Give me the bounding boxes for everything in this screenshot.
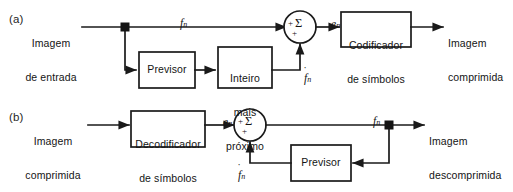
signal-en-b: en — [211, 104, 232, 141]
box-label-decodificador-line1: Decodificador — [132, 139, 204, 150]
input-label-a-line2: de entrada — [18, 72, 84, 83]
box-label-previsor-b: Previsor — [291, 157, 351, 168]
signal-fn-b-sub: n — [376, 118, 380, 127]
signal-fn-hat-a: fn — [292, 60, 311, 97]
box-label-decodificador-line2: de símbolos — [132, 173, 204, 184]
summer-a-sign-bottom: + — [292, 29, 297, 39]
junction-node-a — [121, 23, 130, 32]
predictive-coding-block-diagram: (a) Imagem de entrada fn Previsor Inteir… — [0, 0, 513, 192]
wire-junction-to-previsor — [125, 27, 136, 70]
signal-fn-hat-b-base: f — [238, 169, 241, 181]
box-label-codificador: Codificador de símbolos — [343, 17, 409, 108]
box-label-codificador-line1: Codificador — [343, 40, 409, 51]
box-label-previsor-a: Previsor — [139, 64, 195, 75]
box-label-inteiro-line1: Inteiro — [218, 73, 272, 84]
box-label-codificador-line2: de símbolos — [343, 74, 409, 85]
input-label-a-line1: Imagem — [18, 38, 84, 49]
signal-fn-hat-a-sub: n — [307, 75, 311, 84]
signal-fn-hat-a-base: f — [304, 72, 307, 84]
signal-fn-a: fn — [168, 5, 187, 42]
output-label-b: Imagem descomprimida — [429, 113, 513, 192]
output-label-a: Imagem comprimida — [448, 15, 512, 106]
signal-fn-hat-b-sub: n — [241, 172, 245, 181]
box-label-decodificador: Decodificador de símbolos — [132, 116, 204, 192]
box-label-inteiro-line3: próximo — [218, 141, 272, 152]
signal-fn-hat-b: fn — [226, 157, 245, 192]
signal-en-a-sub: n — [336, 21, 340, 30]
signal-en-b-sub: n — [228, 119, 232, 128]
input-label-b: Imagem comprimida — [18, 113, 88, 192]
output-label-b-line1: Imagem — [429, 136, 513, 147]
input-label-b-line1: Imagem — [18, 136, 88, 147]
junction-node-b — [385, 121, 394, 130]
input-label-b-line2: comprimida — [18, 170, 88, 181]
input-label-a: Imagem de entrada — [18, 15, 84, 106]
signal-fn-a-sub: n — [183, 20, 187, 29]
signal-en-a: en — [319, 6, 340, 43]
summer-b-sign-bottom: + — [242, 127, 247, 137]
output-label-a-line1: Imagem — [448, 38, 512, 49]
output-label-a-line2: comprimida — [448, 72, 512, 83]
signal-fn-b: fn — [361, 103, 380, 140]
output-label-b-line2: descomprimida — [429, 170, 513, 181]
